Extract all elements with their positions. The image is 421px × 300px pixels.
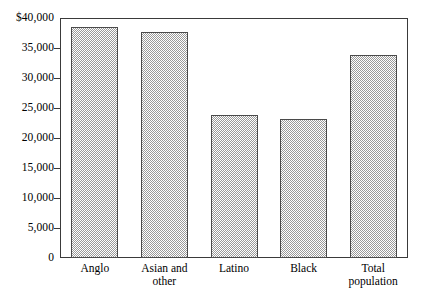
- x-axis-labels: AngloAsian and otherLatinoBlackTotal pop…: [60, 262, 408, 300]
- y-axis-tick-label: 25,000: [22, 102, 54, 114]
- x-axis-category-label: Black: [269, 262, 339, 275]
- y-axis-tick-label: 20,000: [22, 132, 54, 144]
- y-axis-tick-label: 0: [48, 252, 54, 264]
- y-axis-tick-mark: [60, 258, 66, 259]
- y-axis-tick-label: 35,000: [22, 42, 54, 54]
- y-axis-tick-label: $40,000: [16, 12, 54, 24]
- bar: [141, 32, 188, 258]
- y-axis-tick-label: 30,000: [22, 72, 54, 84]
- x-axis-category-label: Latino: [199, 262, 269, 275]
- bar: [71, 27, 118, 258]
- bars-group: [60, 18, 408, 258]
- x-axis-category-label: Total population: [338, 262, 408, 288]
- x-axis-category-label: Anglo: [60, 262, 130, 275]
- y-axis-tick-label: 10,000: [22, 192, 54, 204]
- y-axis-tick-label: 15,000: [22, 162, 54, 174]
- bar: [350, 55, 397, 258]
- bar-chart: $40,00035,00030,00025,00020,00015,00010,…: [0, 0, 421, 300]
- x-axis-category-label: Asian and other: [130, 262, 200, 288]
- bar: [211, 115, 258, 258]
- y-axis-labels: $40,00035,00030,00025,00020,00015,00010,…: [0, 0, 54, 300]
- y-axis-tick-label: 5,000: [28, 222, 54, 234]
- bar: [280, 119, 327, 258]
